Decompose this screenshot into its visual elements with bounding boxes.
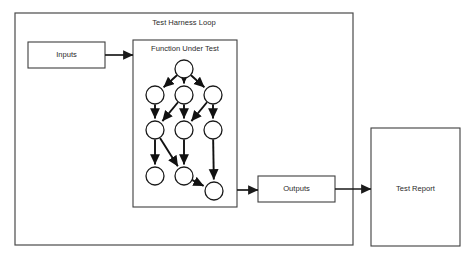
graph-node-n1 xyxy=(146,86,164,104)
graph-node-n3 xyxy=(204,86,222,104)
test-harness-diagram: Test Harness Loop Inputs Function Under … xyxy=(0,0,469,262)
outputs-box-label: Outputs xyxy=(283,184,310,193)
outer-container-label: Test Harness Loop xyxy=(152,18,215,27)
graph-node-n2 xyxy=(175,86,193,104)
graph-node-n0 xyxy=(175,60,193,78)
graph-node-n5 xyxy=(175,121,193,139)
graph-node-n6 xyxy=(204,121,222,139)
graph-node-n9 xyxy=(205,182,223,200)
test-report-box-label: Test Report xyxy=(396,184,436,193)
box-test-report: Test Report xyxy=(371,128,460,246)
graph-node-n7 xyxy=(146,167,164,185)
graph-edge-n6-n9 xyxy=(213,139,214,179)
graph-node-n4 xyxy=(146,121,164,139)
inputs-box-label: Inputs xyxy=(56,50,77,59)
function-under-test-box-label: Function Under Test xyxy=(151,44,220,53)
diagram-canvas: Test Harness Loop Inputs Function Under … xyxy=(0,0,469,262)
graph-node-n8 xyxy=(175,167,193,185)
box-outputs: Outputs xyxy=(258,176,335,202)
box-inputs: Inputs xyxy=(28,42,105,68)
